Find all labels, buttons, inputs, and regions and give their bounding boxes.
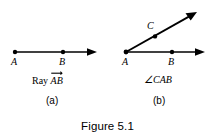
point-a-label: A [122, 57, 128, 67]
figure-5-1: A B Ray AB (a) A B C [0, 0, 215, 139]
panel-a-sublabel: (a) [46, 95, 58, 106]
ray-ac-line [126, 15, 192, 52]
point-b-label: B [168, 57, 174, 67]
point-a-dot [13, 50, 17, 54]
panel-a-caption-vector-group: AB [51, 74, 63, 86]
point-a-label: A [11, 57, 17, 67]
panel-b-sublabel: (b) [153, 95, 165, 106]
overrightarrow-icon [51, 70, 63, 75]
figure-caption: Figure 5.1 [0, 119, 215, 133]
panel-b-angle: A B C ∠CAB (b) [108, 0, 215, 118]
point-b-label: B [59, 57, 65, 67]
point-c-label: C [147, 21, 154, 31]
point-a-dot [124, 50, 129, 55]
panel-a-caption-vector: AB [51, 75, 63, 86]
panel-b-caption: ∠CAB [144, 74, 172, 85]
point-c-dot [153, 34, 157, 38]
point-b-dot [170, 50, 174, 54]
panel-b-caption-vector: ∠CAB [144, 74, 172, 85]
panel-a-ray: A B Ray AB (a) [0, 0, 110, 118]
point-b-dot [61, 50, 65, 54]
ray-ab-arrowhead [195, 48, 205, 56]
panel-a-caption: Ray AB [32, 74, 63, 86]
panel-a-caption-prefix: Ray [32, 75, 51, 86]
ray-ac-arrowhead [186, 12, 198, 21]
ray-ab-arrowhead [87, 48, 97, 56]
